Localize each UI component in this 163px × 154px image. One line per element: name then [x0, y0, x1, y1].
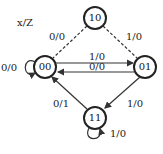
state-label-00: 00 — [30, 62, 60, 72]
edge-label-01-11: 1/0 — [127, 99, 143, 109]
state-label-01: 01 — [130, 62, 160, 72]
edge-label-10-01: 1/0 — [126, 32, 142, 42]
edge-label-11-11: 1/0 — [110, 129, 126, 139]
edge-label-00-00: 0/0 — [1, 63, 17, 73]
legend-label: x/Z — [17, 18, 33, 28]
edge-label-10-00: 0/0 — [49, 32, 65, 42]
state-label-10: 10 — [80, 13, 110, 23]
edge-label-11-00: 0/1 — [53, 99, 69, 109]
state-label-11: 11 — [80, 113, 110, 123]
state-diagram: x/Z 10 00 01 11 0/0 0/0 1/0 1/0 0/0 0/1 … — [0, 0, 163, 154]
edge-label-01-00: 0/0 — [89, 62, 105, 72]
